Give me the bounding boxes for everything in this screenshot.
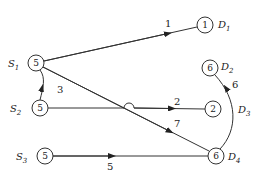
edge-label-d4-d2: 6 bbox=[232, 79, 238, 90]
label-d2: D2 bbox=[220, 61, 234, 75]
svg-text:5: 5 bbox=[33, 58, 39, 68]
svg-text:2: 2 bbox=[210, 104, 216, 114]
flow-network-diagram: 5 5 5 1 6 2 6 S1 S2 S3 D1 D2 D3 D4 1 3 2… bbox=[0, 0, 256, 175]
label-d3: D3 bbox=[237, 104, 251, 118]
label-s1: S1 bbox=[8, 58, 19, 72]
svg-text:5: 5 bbox=[42, 151, 48, 161]
edge-label-s1-d1: 1 bbox=[165, 18, 171, 29]
label-d1: D1 bbox=[217, 19, 231, 33]
edge-label-s2-n2: 2 bbox=[174, 96, 180, 107]
edge-label-s1-d4: 7 bbox=[174, 118, 180, 129]
svg-text:5: 5 bbox=[37, 103, 43, 113]
edge-s2-n2 bbox=[48, 103, 205, 109]
node-s3: 5 bbox=[37, 148, 53, 164]
diagram-svg: 5 5 5 1 6 2 6 S1 S2 S3 D1 D2 D3 D4 1 3 2… bbox=[0, 0, 256, 175]
svg-text:1: 1 bbox=[202, 20, 208, 30]
node-d2: 6 bbox=[202, 60, 218, 76]
node-s1: 5 bbox=[28, 55, 44, 71]
svg-text:6: 6 bbox=[213, 151, 219, 161]
label-d4: D4 bbox=[227, 151, 241, 165]
node-d4: 6 bbox=[208, 148, 224, 164]
node-d1: 1 bbox=[197, 17, 213, 33]
edge-label-s3-d4: 5 bbox=[107, 161, 113, 172]
svg-text:6: 6 bbox=[207, 63, 213, 73]
node-2: 2 bbox=[205, 101, 221, 117]
node-s2: 5 bbox=[32, 100, 48, 116]
edge-label-s2-s1: 3 bbox=[57, 84, 63, 95]
label-s3: S3 bbox=[16, 151, 28, 165]
label-s2: S2 bbox=[10, 103, 22, 117]
edge-s2-s1 bbox=[40, 70, 43, 100]
